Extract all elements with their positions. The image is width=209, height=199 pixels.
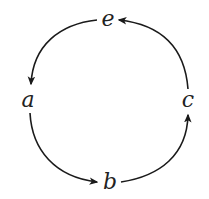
cycle-diagram: e a c b bbox=[0, 0, 209, 199]
edge-e-to-a bbox=[31, 20, 97, 84]
diagram-canvas: e a c b bbox=[0, 0, 209, 199]
edge-b-to-c bbox=[121, 115, 188, 182]
edge-a-to-b bbox=[30, 113, 97, 182]
node-label-c: c bbox=[182, 87, 194, 112]
edge-c-to-e bbox=[119, 20, 188, 89]
node-label-a: a bbox=[21, 87, 34, 112]
node-label-b: b bbox=[103, 169, 117, 194]
node-label-e: e bbox=[101, 6, 114, 31]
